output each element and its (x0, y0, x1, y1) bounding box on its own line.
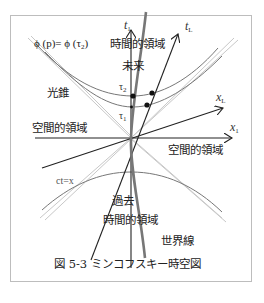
tL-axis-label: tL (185, 20, 193, 34)
past-label: 過去 (112, 196, 134, 208)
future-label: 未来 (122, 61, 144, 73)
xL-axis-label: xL (216, 91, 226, 105)
figure-caption: 図 5-3 ミンコフスキー時空図 (54, 259, 201, 271)
t1-subscript: 1 (127, 25, 131, 33)
t1-axis-label: t1 (124, 19, 131, 33)
x1-subscript: 1 (235, 127, 239, 135)
ct-equals-x-label: ct=x (56, 176, 74, 186)
light-cone-label: 光錐 (47, 88, 69, 100)
tau2-subscript: 2 (123, 86, 127, 94)
x1-axis-label: x1 (230, 121, 239, 135)
minkowski-diagram-figure: t1 tL xL x1 ϕ (p)= ϕ (τ2) τ2 τ1 時間的領域 未来… (0, 0, 264, 303)
tau1-subscript: 1 (123, 115, 127, 123)
future-timelike-label: 時間的領域 (110, 39, 165, 51)
world-line-label: 世界線 (161, 236, 194, 248)
tL-subscript: L (188, 26, 192, 34)
tau2-label: τ2 (119, 82, 127, 94)
spacelike-right-label: 空間的領域 (168, 145, 223, 157)
spacelike-left-label: 空間的領域 (32, 123, 87, 135)
xL-subscript: L (221, 97, 225, 105)
past-timelike-label: 時間的領域 (103, 215, 158, 227)
phi-equation-label: ϕ (p)= ϕ (τ2) (34, 38, 88, 51)
phi-equation-close: ) (84, 37, 88, 49)
phi-equation-text: ϕ (p)= ϕ (τ (34, 37, 81, 49)
tau1-label: τ1 (119, 111, 127, 123)
